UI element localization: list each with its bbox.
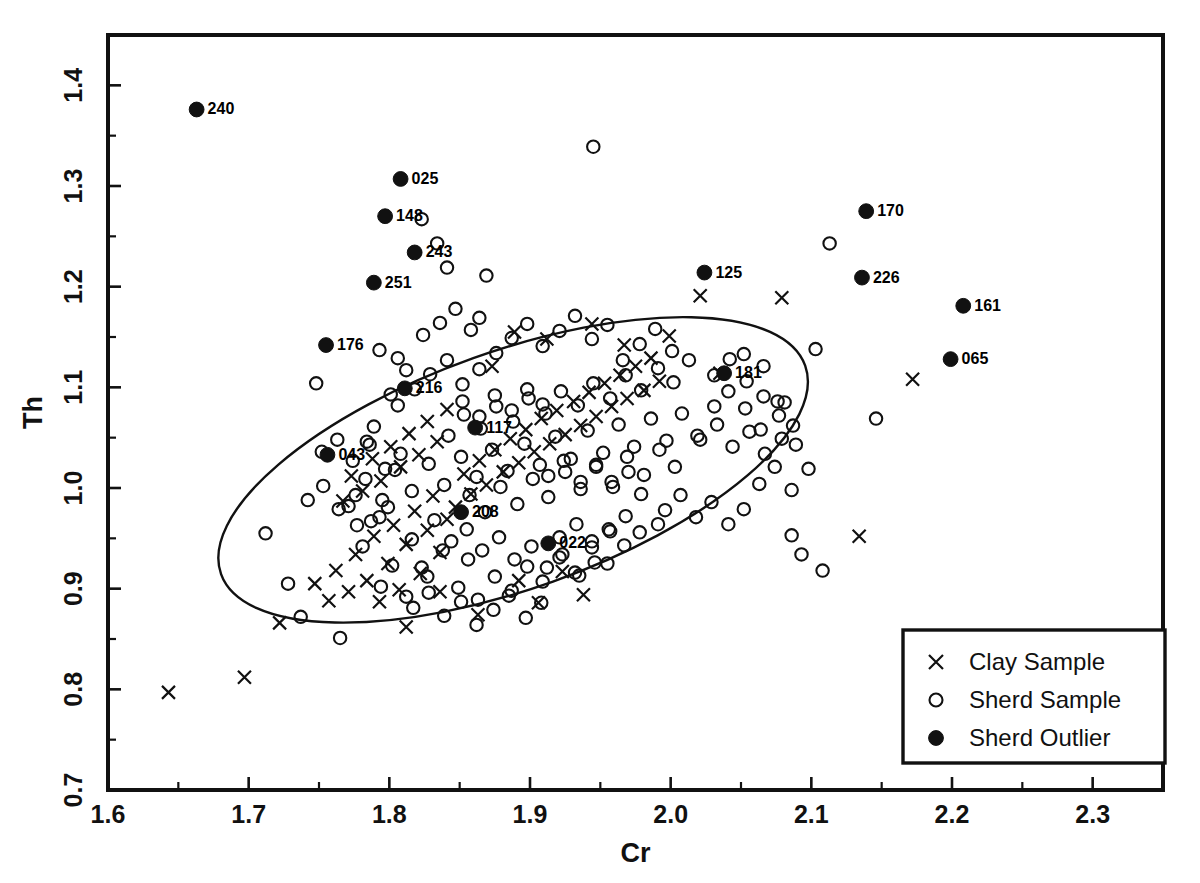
data-point-sherd <box>406 485 418 497</box>
data-point-sherd <box>458 408 470 420</box>
data-point-sherd <box>368 420 380 432</box>
data-point-clay <box>273 616 286 629</box>
data-point-clay <box>308 577 321 590</box>
y-axis-tick-label: 0.9 <box>59 571 87 606</box>
data-point-clay <box>853 530 866 543</box>
data-point-sherd <box>666 345 678 357</box>
data-point-sherd <box>434 317 446 329</box>
data-point-sherd <box>785 484 797 496</box>
data-point-sherd <box>455 451 467 463</box>
data-point-clay <box>441 403 454 416</box>
data-point-sherd <box>375 580 387 592</box>
data-point-sherd <box>259 527 271 539</box>
data-point-clay <box>441 513 454 526</box>
data-point-sherd <box>622 466 634 478</box>
data-point-label: 208 <box>472 503 499 520</box>
data-point-sherd <box>635 488 647 500</box>
data-point-sherd <box>621 451 633 463</box>
data-point-sherd <box>823 237 835 249</box>
data-point-outlier <box>468 420 483 435</box>
data-point-sherd <box>392 352 404 364</box>
data-point-clay <box>408 505 421 518</box>
data-point-sherd <box>386 559 398 571</box>
data-point-label: 181 <box>735 364 762 381</box>
data-point-sherd <box>473 312 485 324</box>
data-point-sherd <box>542 491 554 503</box>
data-point-sherd <box>417 329 429 341</box>
data-point-clay <box>653 375 666 388</box>
data-point-label: 065 <box>962 350 989 367</box>
data-point-sherd <box>669 461 681 473</box>
data-point-sherd <box>645 412 657 424</box>
data-point-sherd <box>452 581 464 593</box>
data-point-sherd <box>295 611 307 623</box>
data-point-sherd <box>527 473 539 485</box>
data-point-sherd <box>462 553 474 565</box>
data-point-sherd <box>351 519 363 531</box>
data-point-sherd <box>456 395 468 407</box>
data-point-clay <box>585 317 598 330</box>
data-point-sherd <box>711 418 723 430</box>
legend-entry-label[interactable]: Sherd Sample <box>969 686 1121 713</box>
data-point-sherd <box>739 402 751 414</box>
data-point-outlier <box>541 536 556 551</box>
data-point-sherd <box>455 596 467 608</box>
data-point-label: 176 <box>337 336 364 353</box>
data-point-sherd <box>617 354 629 366</box>
data-point-clay <box>400 620 413 633</box>
scatter-plot-figure: 1.61.71.81.92.02.12.22.30.70.80.91.01.11… <box>0 0 1200 883</box>
data-point-sherd <box>331 433 343 445</box>
data-point-clay <box>373 595 386 608</box>
data-point-clay <box>663 329 676 342</box>
data-point-sherd <box>542 470 554 482</box>
data-point-clay <box>906 373 919 386</box>
data-point-sherd <box>638 469 650 481</box>
plot-canvas: 1.61.71.81.92.02.12.22.30.70.80.91.01.11… <box>0 0 1200 883</box>
data-point-sherd <box>555 385 567 397</box>
x-axis-tick-label: 1.6 <box>91 800 126 828</box>
data-point-outlier <box>393 172 408 187</box>
y-axis-tick-label: 0.8 <box>59 672 87 707</box>
data-point-clay <box>694 289 707 302</box>
data-point-clay <box>486 360 499 373</box>
legend-entry-label[interactable]: Clay Sample <box>969 648 1105 675</box>
data-point-sherd <box>634 526 646 538</box>
data-point-sherd <box>511 498 523 510</box>
data-point-sherd <box>441 261 453 273</box>
data-point-clay <box>342 585 355 598</box>
data-point-outlier <box>378 209 393 224</box>
data-point-sherd <box>757 390 769 402</box>
data-point-clay <box>556 565 569 578</box>
data-point-label: 240 <box>208 100 235 117</box>
data-point-sherd <box>649 323 661 335</box>
data-point-sherd <box>461 523 473 535</box>
data-point-clay <box>590 410 603 423</box>
x-axis-title: Cr <box>620 838 650 868</box>
data-point-sherd <box>604 392 616 404</box>
data-point-sherd <box>612 418 624 430</box>
series-clay-sample <box>162 289 919 699</box>
data-point-clay <box>519 423 532 436</box>
data-point-sherd <box>521 560 533 572</box>
data-point-clay <box>367 530 380 543</box>
data-point-sherd <box>473 363 485 375</box>
data-point-outlier <box>407 245 422 260</box>
data-point-clay <box>421 415 434 428</box>
y-axis-tick-label: 1.0 <box>59 471 87 506</box>
data-point-sherd <box>816 564 828 576</box>
data-point-outlier <box>943 352 958 367</box>
data-point-label: 170 <box>877 202 904 219</box>
data-point-sherd <box>359 473 371 485</box>
data-point-label: 161 <box>974 297 1001 314</box>
legend[interactable]: Clay SampleSherd SampleSherd Outlier <box>903 630 1165 763</box>
data-point-sherd <box>694 433 706 445</box>
data-point-clay <box>366 452 379 465</box>
data-point-sherd <box>541 561 553 573</box>
data-point-sherd <box>407 602 419 614</box>
legend-entry-label[interactable]: Sherd Outlier <box>969 724 1110 751</box>
x-axis-tick-label: 2.2 <box>935 800 970 828</box>
data-point-sherd <box>785 529 797 541</box>
data-point-label: 125 <box>715 264 742 281</box>
data-point-outlier <box>717 366 732 381</box>
data-point-sherd <box>465 324 477 336</box>
